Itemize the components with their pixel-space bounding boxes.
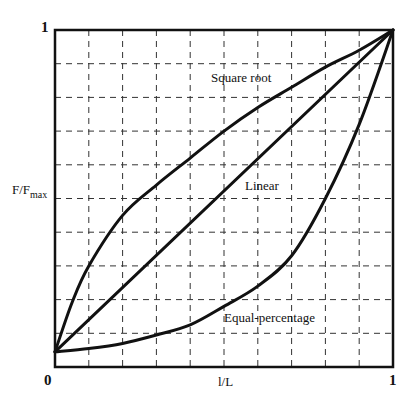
y-axis-title: F/Fmax bbox=[12, 182, 47, 200]
annotation-linear: Linear bbox=[245, 178, 279, 194]
y-tick-top: 1 bbox=[41, 19, 49, 36]
x-tick-right: 1 bbox=[389, 372, 397, 389]
x-tick-origin: 0 bbox=[44, 372, 52, 389]
annotation-square-root: Square root bbox=[211, 70, 271, 86]
y-axis-title-main: F/F bbox=[12, 182, 30, 197]
y-axis-title-sub: max bbox=[30, 189, 47, 200]
annotation-equal-percentage: Equal-percentage bbox=[224, 310, 315, 326]
x-axis-title: l/L bbox=[218, 374, 233, 390]
chart-canvas bbox=[0, 0, 407, 400]
